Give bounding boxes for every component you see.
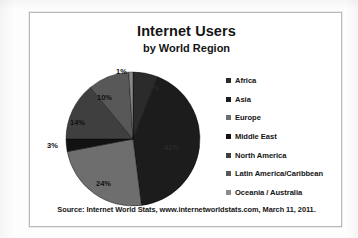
legend-item[interactable]: Europe	[226, 108, 342, 127]
legend-item-label: Middle East	[235, 132, 277, 141]
legend-item-label: North America	[235, 151, 286, 160]
page-title: Internet Users	[30, 23, 343, 40]
legend-item-label: Africa	[235, 76, 256, 85]
slide-frame: Internet Users by World Region 6%42%24%3…	[29, 12, 342, 227]
legend-swatch-icon	[226, 78, 231, 83]
legend-item[interactable]: Asia	[226, 90, 342, 109]
legend-item-label: Europe	[235, 113, 261, 122]
pie-slice-value-label: 42%	[164, 143, 179, 152]
pie-slice-value-label: 6%	[148, 83, 159, 92]
legend-item[interactable]: Oceania / Australia	[226, 183, 342, 202]
legend-swatch-icon	[226, 190, 231, 195]
pie-slice-value-label: 3%	[47, 141, 58, 150]
legend-item[interactable]: Africa	[226, 71, 342, 90]
legend-item[interactable]: North America	[226, 146, 342, 165]
legend-item[interactable]: Middle East	[226, 127, 342, 146]
pie-slice-value-label: 14%	[70, 118, 85, 127]
chart-title-block: Internet Users by World Region	[30, 23, 343, 56]
legend-item[interactable]: Latin America/Caribbean	[226, 164, 342, 183]
legend-item-label: Asia	[235, 95, 251, 104]
pie-chart-svg	[44, 65, 224, 213]
source-note: Source: Internet World Stats, www.intern…	[30, 205, 343, 214]
chart-legend: AfricaAsiaEuropeMiddle EastNorth America…	[226, 71, 342, 202]
slide-page: Internet Users by World Region 6%42%24%3…	[0, 0, 358, 238]
pie-slice-value-label: 10%	[97, 93, 112, 102]
pie-slice-value-label: 1%	[116, 67, 127, 76]
legend-swatch-icon	[226, 153, 231, 158]
legend-item-label: Oceania / Australia	[235, 188, 302, 197]
legend-item-label: Latin America/Caribbean	[235, 169, 323, 178]
legend-swatch-icon	[226, 171, 231, 176]
legend-swatch-icon	[226, 97, 231, 102]
page-subtitle: by World Region	[30, 41, 343, 56]
pie-chart: 6%42%24%3%14%10%1%	[44, 65, 224, 213]
legend-swatch-icon	[226, 115, 231, 120]
legend-swatch-icon	[226, 134, 231, 139]
pie-slice-value-label: 24%	[96, 179, 111, 188]
